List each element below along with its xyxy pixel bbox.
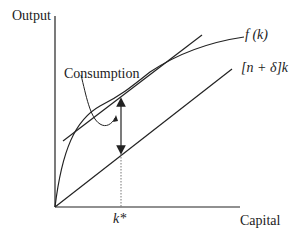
production-label: f (k) [245,28,268,42]
investment-label: [n + δ]k [241,61,288,75]
investment-line [55,69,232,207]
consumption-label: Consumption [64,67,139,81]
y-axis-label: Output [12,9,51,23]
kstar-label: k* [113,212,126,226]
x-axis-label: Capital [240,214,280,228]
pointer-arrowhead [113,115,118,122]
production-curve [55,37,244,207]
